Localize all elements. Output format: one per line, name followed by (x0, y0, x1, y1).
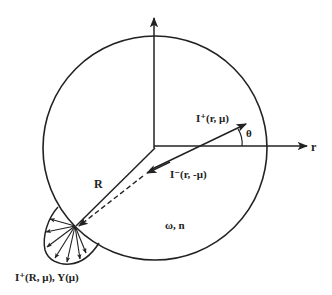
incoming-intensity-label: I⁻(r, -μ) (170, 168, 207, 181)
incoming-dashed-path (79, 176, 143, 226)
medium-properties-label: ω, n (165, 219, 185, 231)
sphere-diagram: r I⁺(r, μ) θ R I⁻(r, -μ) ω, n I⁺(R, μ), … (0, 0, 332, 295)
outgoing-intensity-label: I⁺(r, μ) (196, 112, 229, 125)
theta-label: θ (246, 127, 252, 139)
theta-arc (238, 129, 242, 146)
r-axis-label: r (311, 140, 317, 154)
radius-line (76, 148, 155, 226)
radius-label: R (94, 177, 103, 191)
incoming-intensity-arrow (147, 162, 170, 173)
boundary-emission-label: I⁺(R, μ), Y(μ) (15, 271, 79, 284)
outgoing-intensity-arrow (150, 124, 246, 170)
emission-lobe (44, 207, 99, 264)
